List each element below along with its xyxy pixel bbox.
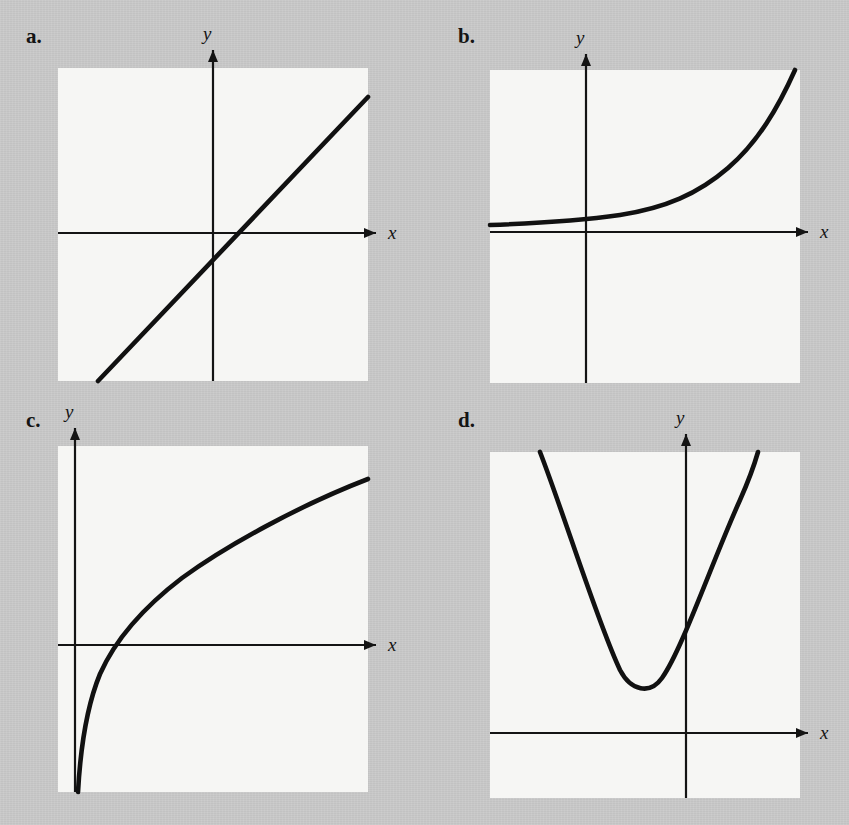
panel-d-x-axis-label: x: [819, 722, 829, 743]
panel-c-label: c.: [26, 410, 41, 431]
panel-d: d. x y: [425, 400, 849, 825]
panel-a-label: a.: [26, 26, 42, 47]
panel-b-y-axis-arrowhead: [581, 54, 591, 66]
panel-b-plot-area: x y: [490, 70, 800, 383]
panel-c-x-axis-arrowhead: [364, 640, 376, 650]
panel-a-curve-linear: [98, 97, 368, 381]
panel-c-plot-area: x y: [58, 446, 368, 792]
panel-d-graph: x y: [490, 452, 800, 798]
panel-a-graph: x y: [58, 68, 368, 381]
panel-c-x-axis-label: x: [387, 634, 397, 655]
panel-d-plot-area: x y: [490, 452, 800, 798]
panel-c-curve-logarithmic: [78, 479, 368, 792]
panel-b: b. x y: [425, 0, 849, 412]
panel-d-y-axis-arrowhead: [681, 434, 691, 446]
panel-a-x-axis-label: x: [387, 222, 397, 243]
panel-a-plot-area: x y: [58, 68, 368, 381]
figure-root: a. x y b.: [0, 0, 849, 825]
panel-b-graph: x y: [490, 70, 800, 383]
panel-a-y-axis-label: y: [201, 23, 212, 44]
panel-c-y-axis-arrowhead: [70, 428, 80, 440]
panel-c: c. x y: [0, 400, 425, 825]
panel-d-x-axis-arrowhead: [796, 728, 808, 738]
panel-d-curve-quadratic: [540, 452, 758, 689]
panel-a: a. x y: [0, 0, 425, 412]
panel-b-y-axis-label: y: [574, 27, 585, 48]
panel-a-x-axis-arrowhead: [364, 228, 376, 238]
panel-b-curve-exponential: [490, 70, 795, 225]
panel-d-y-axis-label: y: [674, 407, 685, 428]
panel-b-label: b.: [458, 26, 475, 47]
panel-c-y-axis-label: y: [63, 401, 74, 422]
panel-a-y-axis-arrowhead: [208, 50, 218, 62]
panel-c-graph: x y: [58, 446, 368, 792]
panel-b-x-axis-arrowhead: [796, 227, 808, 237]
panel-b-x-axis-label: x: [819, 221, 829, 242]
panel-d-label: d.: [458, 410, 475, 431]
